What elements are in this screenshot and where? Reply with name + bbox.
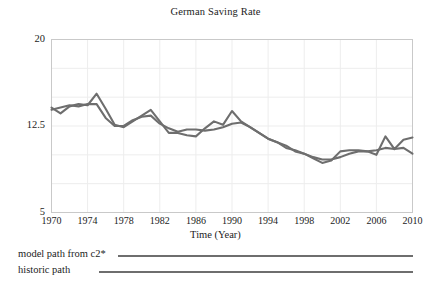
chart-legend: model path from c2* historic path — [0, 248, 431, 286]
x-tick-label: 1994 — [248, 215, 288, 226]
x-tick-label: 1974 — [68, 215, 108, 226]
x-tick-label: 1978 — [104, 215, 144, 226]
plot-area — [0, 0, 431, 288]
x-tick-label: 1982 — [140, 215, 180, 226]
legend-label-model: model path from c2* — [18, 248, 106, 259]
x-tick-label: 2006 — [356, 215, 396, 226]
x-tick-label: 1990 — [212, 215, 252, 226]
chart-figure: German Saving Rate 2012.55 1970197419781… — [0, 0, 431, 288]
y-tick-label: 12.5 — [6, 119, 45, 130]
legend-line-model — [118, 255, 413, 257]
x-tick-label: 1970 — [32, 215, 72, 226]
gridlines — [52, 40, 413, 213]
x-axis-label: Time (Year) — [0, 229, 431, 240]
legend-line-historic — [99, 271, 413, 273]
x-tick-label: 2010 — [393, 215, 431, 226]
legend-label-historic: historic path — [18, 264, 70, 275]
x-tick-label: 2002 — [320, 215, 360, 226]
legend-entry-model: model path from c2* — [0, 248, 431, 263]
x-tick-label: 1998 — [284, 215, 324, 226]
y-tick-label: 20 — [6, 33, 45, 44]
x-tick-label: 1986 — [176, 215, 216, 226]
legend-entry-historic: historic path — [0, 264, 431, 279]
